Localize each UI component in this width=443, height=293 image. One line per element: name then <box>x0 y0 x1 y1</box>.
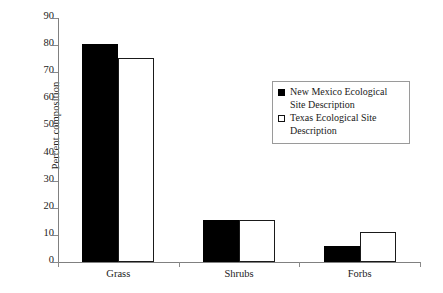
bar-grass-new-mexico <box>82 44 118 262</box>
y-tick-label: 0 <box>49 254 54 265</box>
chart-figure: Percent composition 0102030405060708090 … <box>0 0 443 293</box>
x-tick-label-forbs: Forbs <box>348 268 372 279</box>
legend-swatch-filled-square-icon <box>278 89 285 96</box>
bar-grass-texas <box>118 58 154 262</box>
y-tick-label: 50 <box>44 118 55 129</box>
y-tick-label: 30 <box>44 173 55 184</box>
x-tick-label-grass: Grass <box>106 268 130 279</box>
x-tick-mark <box>179 262 180 267</box>
legend-item-texas: Texas Ecological Site Description <box>278 112 404 137</box>
bar-shrubs-texas <box>239 220 275 262</box>
x-axis-line <box>58 262 420 263</box>
y-tick-label: 70 <box>44 64 55 75</box>
legend-label-texas: Texas Ecological Site Description <box>290 112 404 137</box>
x-tick-mark <box>58 262 59 267</box>
y-axis-line <box>58 18 59 262</box>
y-tick-label: 40 <box>44 146 55 157</box>
y-tick-label: 20 <box>44 200 55 211</box>
legend-label-new-mexico: New Mexico Ecological Site Description <box>290 86 404 111</box>
y-tick-label: 80 <box>44 37 55 48</box>
legend-swatch-open-square-icon <box>278 115 285 122</box>
y-tick-label: 90 <box>44 10 55 21</box>
bar-forbs-texas <box>360 232 396 262</box>
y-tick-label: 10 <box>44 227 55 238</box>
y-tick-label: 60 <box>44 91 55 102</box>
x-tick-mark <box>299 262 300 267</box>
chart-legend: New Mexico Ecological Site Description T… <box>272 81 410 144</box>
bar-shrubs-new-mexico <box>203 220 239 262</box>
legend-item-new-mexico: New Mexico Ecological Site Description <box>278 86 404 111</box>
x-tick-mark <box>420 262 421 267</box>
x-tick-label-shrubs: Shrubs <box>224 268 253 279</box>
bar-forbs-new-mexico <box>324 246 360 262</box>
